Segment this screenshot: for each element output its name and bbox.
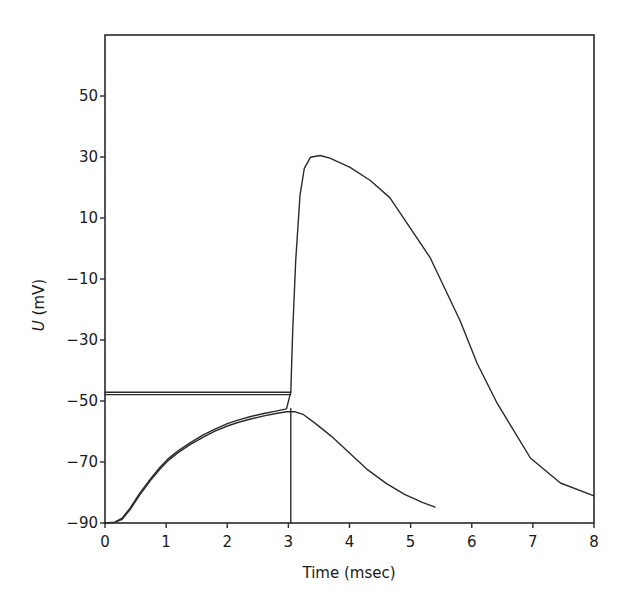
x-tick-label: 2 xyxy=(222,533,232,551)
x-tick-label: 3 xyxy=(284,533,294,551)
y-tick-label: 30 xyxy=(79,148,98,166)
y-tick-label: −10 xyxy=(66,270,98,288)
y-tick-label: −90 xyxy=(66,514,98,532)
x-tick-label: 8 xyxy=(589,533,599,551)
action-potential-line xyxy=(105,156,594,524)
y-axis-label-unit: (mV) xyxy=(30,279,48,320)
y-tick-label: −50 xyxy=(66,392,98,410)
x-tick-label: 4 xyxy=(345,533,355,551)
x-tick-label: 5 xyxy=(406,533,416,551)
y-tick-label: 10 xyxy=(79,209,98,227)
action-potential-chart: 012345678 503010−10−30−50−70−90 Time (ms… xyxy=(0,0,620,604)
y-axis-label-symbol: U xyxy=(30,320,48,331)
subthreshold-response-line xyxy=(105,412,435,523)
y-tick-label: 50 xyxy=(79,87,98,105)
x-tick-label: 7 xyxy=(528,533,538,551)
y-tick-label: −70 xyxy=(66,453,98,471)
x-axis-ticks: 012345678 xyxy=(100,523,599,551)
series-layer xyxy=(105,156,594,524)
y-tick-label: −30 xyxy=(66,331,98,349)
x-axis-label: Time (msec) xyxy=(301,564,395,582)
x-tick-label: 0 xyxy=(100,533,110,551)
x-tick-label: 6 xyxy=(467,533,477,551)
x-tick-label: 1 xyxy=(161,533,171,551)
y-axis-label: U (mV) xyxy=(30,279,48,331)
y-axis-ticks: 503010−10−30−50−70−90 xyxy=(66,87,105,532)
